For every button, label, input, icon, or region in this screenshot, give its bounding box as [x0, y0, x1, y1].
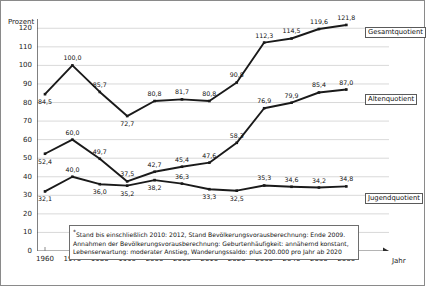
data-label: 45,4: [175, 156, 189, 163]
data-point-marker[interactable]: [126, 115, 129, 118]
footnote-text-1: Stand bis einschließlich 2010: 2012, Sta…: [76, 231, 345, 238]
y-tick-label: 20: [10, 210, 32, 218]
data-point-marker[interactable]: [126, 180, 129, 183]
data-label: 72,7: [120, 120, 134, 127]
data-label: 34,8: [339, 175, 353, 182]
data-point-marker[interactable]: [318, 91, 321, 94]
data-label: 32,1: [38, 195, 52, 202]
data-label: 47,6: [202, 152, 216, 159]
data-point-marker[interactable]: [345, 88, 348, 91]
data-label: 80,8: [202, 90, 216, 97]
y-tick-label: 120: [10, 24, 32, 32]
data-point-marker[interactable]: [71, 138, 74, 141]
footnote-line-3: Lebenserwartung: moderater Anstieg, Wand…: [73, 248, 355, 257]
data-label: 32,5: [230, 195, 244, 202]
data-point-marker[interactable]: [290, 37, 293, 40]
data-point-marker[interactable]: [235, 141, 238, 144]
data-point-marker[interactable]: [318, 186, 321, 189]
y-tick-label: 80: [10, 99, 32, 107]
data-point-marker[interactable]: [235, 189, 238, 192]
data-point-marker[interactable]: [98, 91, 101, 94]
data-label: 52,4: [38, 158, 52, 165]
data-point-marker[interactable]: [181, 165, 184, 168]
data-point-marker[interactable]: [263, 107, 266, 110]
legend-jugendquotient[interactable]: Jugendquotient: [365, 193, 423, 204]
y-tick-label: 90: [10, 80, 32, 88]
data-point-marker[interactable]: [153, 179, 156, 182]
y-tick-label: 30: [10, 191, 32, 199]
data-point-marker[interactable]: [318, 28, 321, 31]
footnote-box: *Stand bis einschließlich 2010: 2012, St…: [69, 225, 359, 260]
line-chart-svg: [37, 19, 389, 251]
data-label: 35,3: [257, 174, 271, 181]
data-point-marker[interactable]: [263, 184, 266, 187]
data-label: 42,7: [148, 161, 162, 168]
data-label: 114,5: [283, 27, 301, 34]
data-point-marker[interactable]: [235, 81, 238, 84]
data-label: 81,7: [175, 88, 189, 95]
data-point-marker[interactable]: [71, 175, 74, 178]
data-label: 85,7: [93, 81, 107, 88]
y-tick-label: 70: [10, 117, 32, 125]
data-point-marker[interactable]: [126, 184, 129, 187]
data-point-marker[interactable]: [290, 101, 293, 104]
data-point-marker[interactable]: [71, 64, 74, 67]
y-tick-label: 60: [10, 136, 32, 144]
data-point-marker[interactable]: [153, 100, 156, 103]
data-point-marker[interactable]: [290, 185, 293, 188]
y-tick-label: 110: [10, 43, 32, 51]
data-label: 33,3: [202, 193, 216, 200]
data-label: 85,4: [312, 81, 326, 88]
data-label: 87,0: [339, 79, 353, 86]
data-point-marker[interactable]: [208, 100, 211, 103]
x-tick-label: 1960: [32, 255, 58, 263]
y-tick-label: 0: [10, 247, 32, 255]
data-label: 90,8: [230, 71, 244, 78]
data-label: 60,0: [65, 129, 79, 136]
legend-gesamtquotient[interactable]: Gesamtquotient: [365, 27, 426, 38]
data-label: 84,5: [38, 98, 52, 105]
footnote-line-1: *Stand bis einschließlich 2010: 2012, St…: [73, 228, 355, 240]
y-tick-label: 10: [10, 228, 32, 236]
data-point-marker[interactable]: [44, 190, 47, 193]
footnote-line-2: Annahmen der Bevölkerungsvorausberechnun…: [73, 240, 355, 249]
data-label: 80,8: [148, 90, 162, 97]
legend-altenquotient[interactable]: Altenquotient: [365, 94, 417, 105]
data-label: 38,2: [148, 184, 162, 191]
data-label: 36,0: [93, 188, 107, 195]
data-point-marker[interactable]: [181, 98, 184, 101]
data-point-marker[interactable]: [208, 188, 211, 191]
data-point-marker[interactable]: [44, 93, 47, 96]
data-point-marker[interactable]: [208, 161, 211, 164]
x-axis-arrow: [383, 248, 389, 252]
data-point-marker[interactable]: [345, 24, 348, 27]
data-label: 34,2: [312, 177, 326, 184]
data-point-marker[interactable]: [98, 157, 101, 160]
data-label: 112,3: [255, 32, 273, 39]
plot-area: [37, 19, 389, 251]
y-tick-label: 100: [10, 61, 32, 69]
series-line-jugendquotient: [45, 177, 346, 192]
data-point-marker[interactable]: [44, 152, 47, 155]
data-label: 79,9: [285, 92, 299, 99]
data-point-marker[interactable]: [345, 185, 348, 188]
data-label: 36,3: [175, 173, 189, 180]
data-label: 76,9: [257, 97, 271, 104]
data-label: 40,0: [65, 166, 79, 173]
data-label: 121,8: [337, 14, 355, 21]
data-point-marker[interactable]: [98, 183, 101, 186]
y-tick-label: 50: [10, 154, 32, 162]
data-point-marker[interactable]: [181, 182, 184, 185]
series-line-altenquotient: [45, 90, 346, 182]
data-label: 34,6: [285, 176, 299, 183]
data-label: 35,2: [120, 190, 134, 197]
data-label: 100,0: [63, 54, 81, 61]
data-point-marker[interactable]: [263, 41, 266, 44]
data-label: 37,5: [120, 170, 134, 177]
data-point-marker[interactable]: [153, 170, 156, 173]
data-label: 119,6: [310, 18, 328, 25]
data-label: 58,3: [230, 132, 244, 139]
data-label: 49,7: [93, 148, 107, 155]
y-tick-label: 40: [10, 173, 32, 181]
